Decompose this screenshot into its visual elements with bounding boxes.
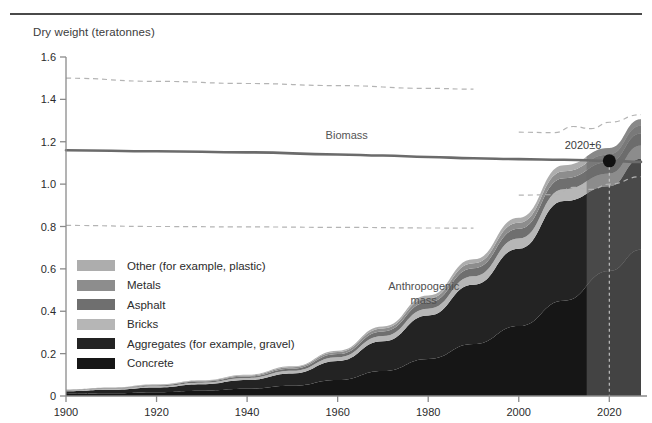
chart-container: Dry weight (teratonnes) 00.20.40.60.81.0… [0,0,652,423]
projection-shading [587,57,641,396]
chart-legend: Other (for example, plastic)MetalsAsphal… [77,256,294,373]
x-tick-label: 2020 [597,406,621,418]
x-tick-label: 1960 [325,406,349,418]
legend-label: Bricks [127,318,158,330]
crossover-point-marker [603,154,616,167]
legend-item: Metals [77,276,294,296]
legend-item: Concrete [77,354,294,374]
legend-swatch [77,319,115,330]
series-biomass-upper-uncertainty-continued [519,115,641,133]
y-tick-label: 1.6 [41,51,56,63]
y-tick-label: 1.0 [41,178,56,190]
legend-label: Metals [127,279,161,291]
legend-swatch [77,260,115,271]
series-biomass [66,150,641,162]
legend-label: Other (for example, plastic) [127,260,266,272]
y-tick-label: 0.4 [41,305,56,317]
x-tick-label: 1940 [235,406,259,418]
y-tick-label: 0.6 [41,263,56,275]
legend-item: Other (for example, plastic) [77,256,294,276]
legend-label: Aggregates (for example, gravel) [127,338,294,350]
series-biomass-upper-uncertainty [66,78,473,89]
series-biomass-lower-uncertainty [66,225,473,228]
biomass-series-label: Biomass [326,129,369,141]
y-tick-label: 0.8 [41,221,56,233]
y-tick-label: 0 [50,390,56,402]
y-tick-label: 1.4 [41,93,56,105]
legend-swatch [77,358,115,369]
legend-item: Bricks [77,315,294,335]
legend-swatch [77,338,115,349]
legend-item: Asphalt [77,295,294,315]
y-tick-label: 1.2 [41,136,56,148]
legend-swatch [77,299,115,310]
anthropogenic-mass-label: Anthropogenic [388,280,459,292]
crossover-annotation-label: 2020±6 [565,139,602,151]
x-tick-label: 1980 [416,406,440,418]
x-tick-label: 1900 [54,406,78,418]
legend-label: Concrete [127,357,174,369]
x-tick-label: 1920 [144,406,168,418]
y-tick-label: 0.2 [41,348,56,360]
legend-label: Asphalt [127,299,165,311]
x-tick-label: 2000 [507,406,531,418]
legend-item: Aggregates (for example, gravel) [77,334,294,354]
legend-swatch [77,280,115,291]
anthropogenic-mass-label-line2: mass [411,294,438,306]
